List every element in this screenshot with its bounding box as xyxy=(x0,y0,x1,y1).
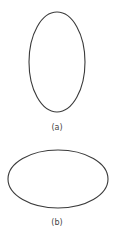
figure: (a) (b) xyxy=(0,0,131,236)
vertical-ellipse xyxy=(29,12,85,112)
horizontal-ellipse xyxy=(8,150,108,208)
panel-label-b: (b) xyxy=(51,218,62,227)
panel-label-a: (a) xyxy=(51,123,62,132)
